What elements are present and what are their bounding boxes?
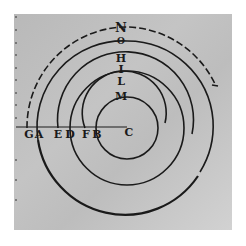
label-o: O: [117, 36, 125, 47]
arc-gn-end-tick: [212, 85, 218, 86]
label-b: B: [92, 129, 101, 140]
edge-tick-marks: [15, 17, 17, 200]
label-d: D: [65, 129, 75, 140]
label-e: E: [54, 129, 62, 140]
label-m: M: [115, 91, 127, 102]
label-f: F: [82, 129, 90, 140]
label-c-center: C: [125, 127, 134, 138]
arc-ao-bottom: [38, 140, 198, 215]
label-a: A: [35, 129, 44, 140]
label-g: G: [24, 129, 33, 140]
label-i: I: [118, 64, 123, 75]
label-n: N: [115, 22, 127, 33]
label-l: L: [117, 76, 125, 87]
